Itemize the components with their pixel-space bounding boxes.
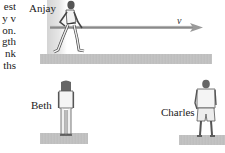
anjay-figure — [45, 0, 105, 56]
charles-figure — [193, 79, 219, 139]
beth-label: Beth — [31, 99, 52, 111]
velocity-label: v — [177, 15, 181, 26]
charles-label: Charles — [161, 106, 195, 118]
pole-arrow — [0, 0, 225, 60]
beth-figure — [54, 80, 78, 138]
text-line: ths — [0, 60, 16, 72]
